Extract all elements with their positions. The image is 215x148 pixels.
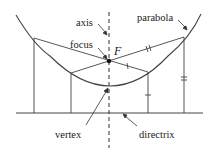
- focus-symbol-label: F: [113, 44, 122, 58]
- vertex-leader-arrow: [86, 88, 108, 125]
- tick-mark-single-chord: [127, 63, 128, 69]
- axis-leader-arrow: [98, 24, 107, 35]
- axis-label: axis: [76, 17, 93, 28]
- parabola-leader-arrow: [178, 20, 187, 30]
- directrix-label: directrix: [139, 129, 175, 140]
- parabola-label: parabola: [137, 12, 173, 23]
- directrix-leader-arrow: [123, 114, 137, 126]
- focus-label: focus: [70, 39, 93, 50]
- vertex-label: vertex: [55, 129, 82, 140]
- parabola-diagram: axis focus F parabola vertex directrix: [0, 0, 215, 148]
